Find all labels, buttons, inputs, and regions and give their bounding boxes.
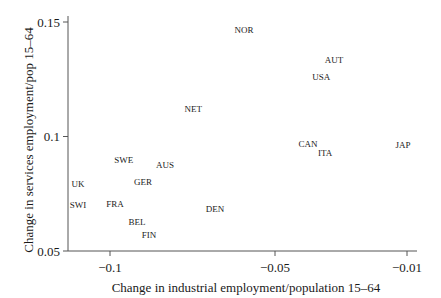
point-label-swi: SWI xyxy=(70,200,87,210)
axes xyxy=(68,16,417,251)
y-axis-title: Change in services employment/pop 15–64 xyxy=(21,27,36,253)
point-label-usa: USA xyxy=(312,72,331,82)
point-label-net: NET xyxy=(184,104,202,114)
point-label-fin: FIN xyxy=(142,230,157,240)
y-axis-ticks: 0.050.10.15 xyxy=(37,15,68,259)
y-tick-label: 0.15 xyxy=(37,15,60,30)
point-label-ita: ITA xyxy=(318,148,333,158)
point-label-fra: FRA xyxy=(106,199,124,209)
x-axis-ticks: −0.1−0.05−0.01 xyxy=(98,251,422,275)
point-label-nor: NOR xyxy=(234,25,253,35)
data-points: NORAUTUSANETCANITAJAPSWEAUSUKGERSWIFRADE… xyxy=(70,25,411,239)
point-label-swe: SWE xyxy=(114,155,134,165)
point-label-jap: JAP xyxy=(396,140,411,150)
point-label-ger: GER xyxy=(134,177,152,187)
point-label-bel: BEL xyxy=(129,217,146,227)
point-label-aut: AUT xyxy=(325,55,344,65)
point-label-aus: AUS xyxy=(156,160,174,170)
x-axis-title: Change in industrial employment/populati… xyxy=(112,280,381,295)
x-tick-label: −0.05 xyxy=(260,260,290,275)
point-label-den: DEN xyxy=(206,204,225,214)
x-tick-label: −0.1 xyxy=(98,260,122,275)
y-tick-label: 0.1 xyxy=(44,129,60,144)
point-label-can: CAN xyxy=(298,139,318,149)
scatter-chart: 0.050.10.15 −0.1−0.05−0.01 NORAUTUSANETC… xyxy=(0,0,441,298)
point-label-uk: UK xyxy=(71,179,84,189)
x-tick-label: −0.01 xyxy=(392,260,422,275)
y-tick-label: 0.05 xyxy=(37,244,60,259)
